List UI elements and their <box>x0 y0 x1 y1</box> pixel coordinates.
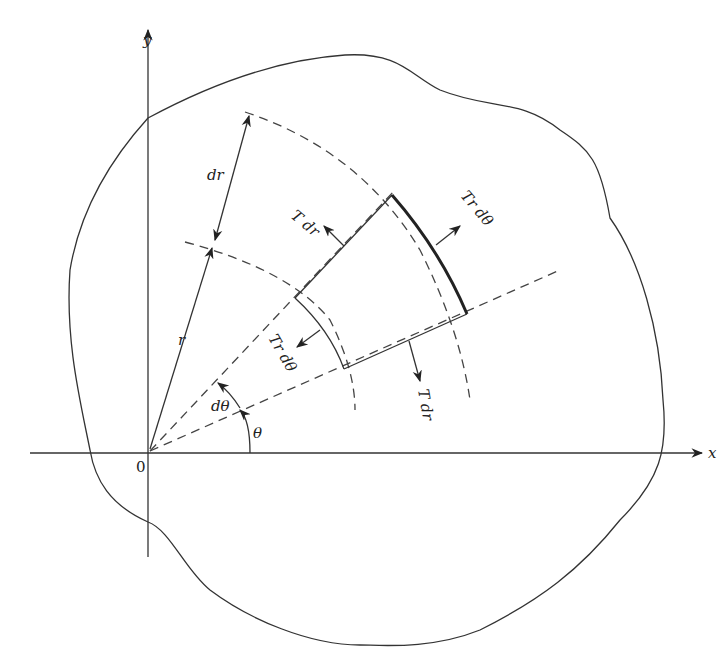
trdtheta-outer-arrow <box>436 226 460 245</box>
trdtheta-inner-label: Tr dθ <box>265 331 301 375</box>
theta-arc <box>240 410 250 453</box>
radial-line-theta <box>150 270 560 451</box>
inner-arc-dashed <box>185 242 355 410</box>
membrane-boundary <box>69 55 664 646</box>
tdr-lower-arrow <box>409 341 420 381</box>
x-axis-label: x <box>708 444 717 462</box>
tdr-upper-arrow <box>324 226 344 246</box>
element-lower-edge <box>344 314 467 369</box>
trdtheta-outer-label: Tr dθ <box>457 187 497 230</box>
trdtheta-inner-arrow <box>297 330 320 347</box>
tdr-upper-label: T dr <box>287 206 323 241</box>
y-axis-label: y <box>142 31 152 49</box>
radius-label: r <box>178 331 186 349</box>
radial-line-theta-dtheta <box>150 190 395 451</box>
membrane-diagram: x y 0 r dr θ dθ T dr Tr dθ Tr dθ T dr <box>0 0 722 659</box>
theta-label: θ <box>253 424 262 442</box>
dr-label: dr <box>207 166 225 184</box>
tdr-lower-label: T dr <box>414 388 437 423</box>
element-outer-arc-thick <box>392 195 467 314</box>
dtheta-label: dθ <box>211 397 230 415</box>
element-upper-edge <box>295 195 392 298</box>
origin-label: 0 <box>136 458 146 476</box>
